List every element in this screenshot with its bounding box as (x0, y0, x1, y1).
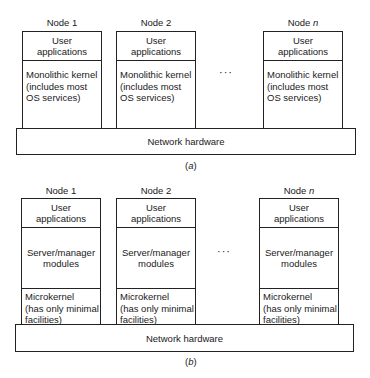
node-n-label-prefix: Node (288, 17, 313, 28)
user-applications-layer: User applications (260, 199, 338, 227)
node-1-label: Node 1 (21, 185, 101, 196)
node-1-box: User applications Monolithic kernel (inc… (22, 31, 102, 129)
node-1-label: Node 1 (22, 17, 102, 28)
microkernel-layer: Microkernel (has only minimal facilities… (117, 288, 195, 324)
node-2-label: Node 2 (116, 17, 196, 28)
monolithic-kernel-layer: Monolithic kernel (includes most OS serv… (117, 60, 195, 128)
microkernel-layer: Microkernel (has only minimal facilities… (22, 288, 100, 324)
node-1-box: User applications Server/manager modules… (21, 198, 101, 325)
user-applications-layer: User applications (22, 199, 100, 227)
caption-a: (a) (185, 160, 197, 171)
node-n-label: Node n (259, 185, 339, 196)
node-2-box: User applications Monolithic kernel (inc… (116, 31, 196, 129)
node-2-label: Node 2 (116, 185, 196, 196)
network-hardware: Network hardware (16, 128, 356, 155)
node-n-label: Node n (263, 17, 343, 28)
node-n-box: User applications Server/manager modules… (259, 198, 339, 325)
monolithic-kernel-layer: Monolithic kernel (includes most OS serv… (23, 60, 101, 128)
ellipsis: ··· (219, 66, 233, 78)
node-2-box: User applications Server/manager modules… (116, 198, 196, 325)
user-applications-layer: User applications (23, 32, 101, 60)
server-manager-layer: Server/manager modules (22, 227, 100, 288)
user-applications-layer: User applications (264, 32, 342, 60)
microkernel-layer: Microkernel (has only minimal facilities… (260, 288, 338, 324)
node-n-box: User applications Monolithic kernel (inc… (263, 31, 343, 129)
server-manager-layer: Server/manager modules (117, 227, 195, 288)
user-applications-layer: User applications (117, 199, 195, 227)
caption-b: (b) (185, 356, 197, 367)
user-applications-layer: User applications (117, 32, 195, 60)
node-n-label-prefix: Node (284, 185, 309, 196)
server-manager-layer: Server/manager modules (260, 227, 338, 288)
network-hardware: Network hardware (15, 324, 354, 352)
monolithic-kernel-layer: Monolithic kernel (includes most OS serv… (264, 60, 342, 128)
ellipsis: ··· (217, 245, 231, 257)
node-n-label-var: n (313, 17, 318, 28)
node-n-label-var: n (309, 185, 314, 196)
